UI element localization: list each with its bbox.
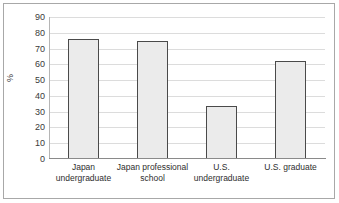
- y-axis-line: [49, 17, 50, 159]
- x-tick-label-japan-undergraduate: Japan undergraduate: [47, 162, 121, 183]
- x-tick-label-japan-professional-school: Japan professional school: [116, 162, 190, 183]
- y-tick-label-40: 40: [15, 92, 45, 101]
- bar-us-graduate: [275, 61, 306, 159]
- bar-japan-professional-school: [137, 41, 168, 159]
- bar-chart-figure: % 90 80 70 60 50 40 30 20 10 0 Japan und…: [0, 0, 339, 203]
- y-tick-label-20: 20: [15, 123, 45, 132]
- gridline-90: [49, 17, 325, 18]
- x-tick-label-us-graduate: U.S. graduate: [254, 162, 328, 173]
- y-tick-label-70: 70: [15, 45, 45, 54]
- y-tick-label-50: 50: [15, 76, 45, 85]
- bar-us-undergraduate: [206, 106, 237, 159]
- gridline-80: [49, 33, 325, 34]
- y-tick-label-0: 0: [15, 155, 45, 164]
- x-axis-line: [49, 158, 326, 159]
- y-tick-label-90: 90: [15, 13, 45, 22]
- x-tick-label-us-undergraduate: U.S. undergraduate: [185, 162, 259, 183]
- bar-japan-undergraduate: [68, 39, 99, 159]
- y-tick-label-80: 80: [15, 29, 45, 38]
- y-tick-label-10: 10: [15, 139, 45, 148]
- y-tick-label-60: 60: [15, 60, 45, 69]
- y-tick-label-30: 30: [15, 108, 45, 117]
- y-axis-tick-labels: 90 80 70 60 50 40 30 20 10 0: [12, 17, 45, 159]
